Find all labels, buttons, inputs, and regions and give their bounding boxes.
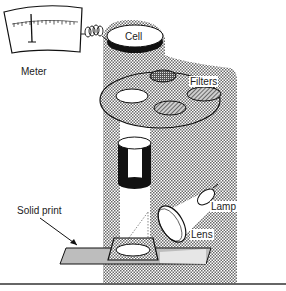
label-lens: Lens <box>190 229 214 240</box>
aperture-tube <box>118 137 151 189</box>
meter <box>4 6 107 53</box>
label-solid-print: Solid print <box>16 205 62 216</box>
specimen-stage <box>108 238 158 260</box>
label-lamp: Lamp <box>210 201 237 212</box>
label-cell: Cell <box>124 31 143 42</box>
densitometer-diagram <box>0 0 286 291</box>
label-meter: Meter <box>20 66 48 77</box>
label-filters: Filters <box>189 76 218 87</box>
